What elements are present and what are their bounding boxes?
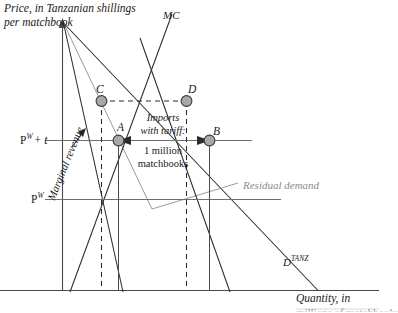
residual-demand-label: Residual demand: [243, 179, 319, 191]
point-c-marker: [96, 96, 107, 107]
y-axis-title-line2: per matchbook: [4, 16, 136, 30]
tanz-demand-label-base: D: [283, 256, 291, 268]
imports-annotation-value: 1 million matchbooks: [124, 145, 202, 170]
point-a-marker: [113, 135, 124, 146]
point-d-label: D: [188, 83, 196, 95]
imports-annotation-title-line2: with tariff:: [128, 125, 198, 138]
residual-demand-curve-2: [152, 183, 238, 209]
mc-curve-label: MC: [163, 9, 180, 21]
y-axis-title-line1: Price, in Tanzanian shillings: [4, 2, 136, 16]
pw-plus-t-label-sup: W: [26, 132, 32, 141]
tanz-demand-label-sup: TANZ: [291, 254, 308, 263]
pw-label: PW: [31, 191, 44, 205]
pw-plus-t-label: PW + t: [20, 132, 47, 146]
x-axis-title-line1: Quantity, in: [296, 292, 350, 306]
point-a-label: A: [117, 121, 124, 133]
point-c-label: C: [96, 83, 104, 95]
y-axis-title: Price, in Tanzanian shillings per matchb…: [4, 2, 136, 29]
imports-annotation-title: Imports with tariff:: [128, 112, 198, 137]
x-axis-title: Quantity, in: [296, 292, 350, 306]
imports-annotation-value-line1: 1 million: [124, 145, 202, 158]
imports-annotation-title-line1: Imports: [128, 112, 198, 125]
imports-annotation-value-line2: matchbooks: [124, 158, 202, 171]
point-b-label: B: [213, 125, 220, 137]
tanz-demand-label: DTANZ: [283, 254, 308, 268]
pw-plus-t-label-suffix: + t: [34, 134, 48, 146]
pw-label-sup: W: [37, 191, 43, 200]
point-d-marker: [181, 96, 192, 107]
